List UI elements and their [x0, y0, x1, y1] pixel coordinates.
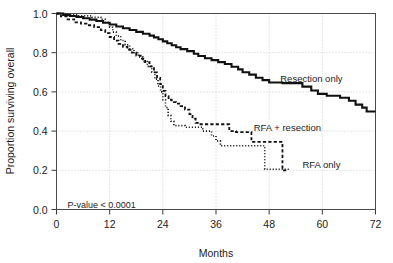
x-tick-label: 24 [157, 218, 169, 230]
y-tick-label: 0.2 [33, 164, 48, 176]
x-tick-label: 48 [263, 218, 275, 230]
plot-svg: 01224364860720.00.20.40.60.81.0 Resectio… [0, 0, 393, 263]
y-tick-label: 0.6 [33, 86, 48, 98]
curve-label-rfa-only: RFA only [302, 159, 340, 170]
x-tick-label: 60 [316, 218, 328, 230]
series-line-rfa-only [57, 14, 290, 170]
y-axis-title: Proportion surviving overall [4, 48, 16, 175]
survival-chart-figure: 01224364860720.00.20.40.60.81.0 Resectio… [0, 0, 393, 263]
y-tick-label: 0.8 [33, 47, 48, 59]
annotation-p-value: P-value < 0.0001 [68, 200, 136, 210]
y-tick-label: 1.0 [33, 8, 48, 20]
y-tick-label: 0.0 [33, 204, 48, 216]
gridlines-layer [57, 14, 376, 210]
x-axis-title: Months [199, 247, 233, 259]
plot-frame [57, 14, 376, 210]
x-tick-label: 72 [370, 218, 382, 230]
tick-labels-layer: 01224364860720.00.20.40.60.81.0 [33, 8, 382, 230]
x-tick-label: 36 [210, 218, 222, 230]
tickmarks-layer [52, 14, 376, 215]
curve-labels-layer: Resection onlyRFA + resectionRFA only [254, 73, 343, 170]
x-tick-label: 12 [104, 218, 116, 230]
y-tick-label: 0.4 [33, 125, 48, 137]
curve-label-rfa-resection: RFA + resection [254, 122, 321, 133]
curve-label-resection-only: Resection only [280, 73, 343, 84]
series-line-rfa-resection [57, 14, 289, 171]
x-tick-label: 0 [54, 218, 60, 230]
annotations-layer: P-value < 0.0001 [68, 200, 136, 210]
